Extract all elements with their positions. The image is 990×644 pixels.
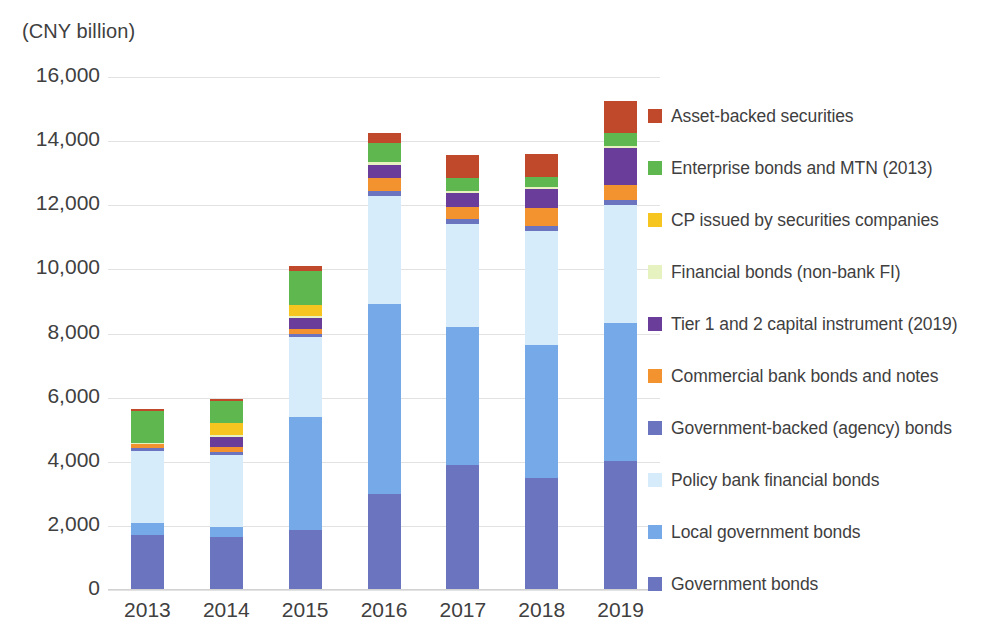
bar-segment[interactable] — [368, 133, 401, 142]
bar-segment[interactable] — [368, 494, 401, 590]
legend-item[interactable]: Government-backed (agency) bonds — [648, 402, 988, 454]
bar-segment[interactable] — [525, 154, 558, 177]
bar-segment[interactable] — [131, 448, 164, 451]
legend-item-label: Commercial bank bonds and notes — [671, 366, 938, 387]
bar-segment[interactable] — [446, 191, 479, 193]
bar-segment[interactable] — [131, 451, 164, 523]
bar-segment[interactable] — [368, 191, 401, 196]
bar-segment[interactable] — [525, 187, 558, 189]
bar-segment[interactable] — [210, 399, 243, 401]
legend-item[interactable]: Tier 1 and 2 capital instrument (2019) — [648, 298, 988, 350]
bar-segment[interactable] — [525, 478, 558, 590]
bar-segment[interactable] — [289, 329, 322, 334]
legend-item-label: Government bonds — [671, 574, 818, 595]
bar-segment[interactable] — [368, 165, 401, 178]
legend-item-label: Tier 1 and 2 capital instrument (2019) — [671, 314, 957, 335]
bar-segment[interactable] — [525, 231, 558, 345]
bar-segment[interactable] — [525, 177, 558, 187]
y-axis-tick-label: 6,000 — [6, 384, 100, 408]
bar-2013[interactable] — [131, 77, 164, 590]
x-axis-tick-labels: 2013201420152016201720182019 — [108, 598, 660, 638]
legend-swatch-icon — [648, 109, 662, 123]
bar-segment[interactable] — [131, 443, 164, 444]
bar-segment[interactable] — [210, 401, 243, 423]
y-axis-tick-label: 2,000 — [6, 512, 100, 536]
legend-item[interactable]: Enterprise bonds and MTN (2013) — [648, 142, 988, 194]
legend-item[interactable]: Asset-backed securities — [648, 90, 988, 142]
bar-segment[interactable] — [289, 337, 322, 416]
bar-segment[interactable] — [368, 162, 401, 164]
bar-2014[interactable] — [210, 77, 243, 590]
bar-2018[interactable] — [525, 77, 558, 590]
bar-segment[interactable] — [446, 155, 479, 178]
bar-segment[interactable] — [446, 178, 479, 191]
bar-segment[interactable] — [446, 224, 479, 327]
y-axis-tick-label: 16,000 — [6, 63, 100, 87]
bar-segment[interactable] — [604, 148, 637, 185]
bar-segment[interactable] — [525, 226, 558, 231]
legend-item[interactable]: Policy bank financial bonds — [648, 454, 988, 506]
bar-segment[interactable] — [131, 523, 164, 535]
bar-segment[interactable] — [210, 435, 243, 436]
bar-segment[interactable] — [446, 207, 479, 220]
bar-segment[interactable] — [131, 535, 164, 590]
bar-segment[interactable] — [604, 205, 637, 323]
bar-segment[interactable] — [525, 189, 558, 208]
bar-segment[interactable] — [210, 527, 243, 537]
legend-item[interactable]: Commercial bank bonds and notes — [648, 350, 988, 402]
bar-segment[interactable] — [289, 530, 322, 590]
bar-segment[interactable] — [210, 455, 243, 527]
plot-area — [108, 77, 660, 590]
bar-segment[interactable] — [604, 323, 637, 462]
bar-segment[interactable] — [446, 219, 479, 224]
bar-segment[interactable] — [289, 271, 322, 305]
bar-2017[interactable] — [446, 77, 479, 590]
bar-segment[interactable] — [525, 208, 558, 226]
bar-segment[interactable] — [446, 327, 479, 465]
bar-segment[interactable] — [368, 196, 401, 304]
y-axis-tick-label: 0 — [6, 576, 100, 600]
bar-segment[interactable] — [210, 447, 243, 451]
bar-segment[interactable] — [604, 185, 637, 200]
bar-segment[interactable] — [604, 146, 637, 148]
legend-item[interactable]: Government bonds — [648, 558, 988, 610]
bar-2016[interactable] — [368, 77, 401, 590]
legend-swatch-icon — [648, 265, 662, 279]
bar-segment[interactable] — [604, 200, 637, 205]
bar-segment[interactable] — [210, 437, 243, 448]
bar-segment[interactable] — [289, 334, 322, 338]
bar-2019[interactable] — [604, 77, 637, 590]
legend-item[interactable]: Financial bonds (non-bank FI) — [648, 246, 988, 298]
bar-segment[interactable] — [210, 537, 243, 590]
chart-legend: Asset-backed securitiesEnterprise bonds … — [648, 90, 988, 610]
bar-segment[interactable] — [289, 266, 322, 271]
bar-2015[interactable] — [289, 77, 322, 590]
bar-segment[interactable] — [446, 465, 479, 590]
y-axis-tick-label: 4,000 — [6, 448, 100, 472]
bar-segment[interactable] — [289, 316, 322, 318]
legend-item[interactable]: Local government bonds — [648, 506, 988, 558]
bar-segment[interactable] — [604, 101, 637, 133]
bar-segment[interactable] — [131, 409, 164, 411]
bar-segment[interactable] — [131, 411, 164, 442]
legend-swatch-icon — [648, 317, 662, 331]
stacked-bar-chart-figure: (CNY billion) 02,0004,0006,0008,00010,00… — [0, 0, 990, 644]
bar-segment[interactable] — [210, 452, 243, 456]
y-axis-tick-label: 8,000 — [6, 320, 100, 344]
x-axis-tick-label-2017: 2017 — [423, 598, 503, 622]
bar-segment[interactable] — [604, 133, 637, 146]
bar-segment[interactable] — [368, 143, 401, 163]
bar-segment[interactable] — [210, 423, 243, 435]
legend-item-label: CP issued by securities companies — [671, 210, 939, 231]
bar-segment[interactable] — [368, 178, 401, 191]
bar-segment[interactable] — [289, 417, 322, 531]
bar-segment[interactable] — [604, 461, 637, 590]
bar-segment[interactable] — [368, 304, 401, 494]
bar-segment[interactable] — [525, 345, 558, 478]
bar-segment[interactable] — [446, 193, 479, 207]
bar-segment[interactable] — [289, 305, 322, 317]
bar-segment[interactable] — [131, 444, 164, 448]
bar-segment[interactable] — [289, 318, 322, 329]
legend-item[interactable]: CP issued by securities companies — [648, 194, 988, 246]
legend-item-label: Enterprise bonds and MTN (2013) — [671, 158, 932, 179]
